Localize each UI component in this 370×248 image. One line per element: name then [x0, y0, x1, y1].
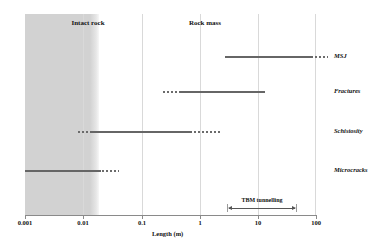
- tbm-arrow-line: [229, 208, 295, 209]
- row-label-msj: MSJ: [334, 52, 347, 59]
- zone-label-intact-rock: Intact rock: [71, 19, 104, 27]
- x-axis-label-0.01: 0.01: [77, 219, 88, 226]
- bar-schistosity-dotted-high: [193, 131, 221, 133]
- bar-msj-dotted: [314, 56, 328, 58]
- tbm-arrow-head-left: [228, 206, 232, 210]
- gridline-100: [315, 14, 316, 215]
- gridline-1: [200, 14, 201, 215]
- x-axis-line: [25, 215, 316, 216]
- gridline-10: [258, 14, 259, 215]
- gridline-0.1: [142, 14, 143, 215]
- row-label-fractures: Fractures: [334, 87, 360, 94]
- chart-figure: Intact rock Rock mass MSJ Fractures Schi…: [0, 0, 370, 248]
- annotation-label-tbm-tunnelling: TBM tunnelling: [241, 197, 282, 203]
- x-axis-label-100: 100: [311, 219, 321, 226]
- bar-microcracks: [25, 170, 101, 172]
- x-axis-title: Length (m): [152, 230, 183, 237]
- row-label-schistosity: Schistosity: [334, 127, 363, 134]
- gridline-0.01: [83, 14, 84, 215]
- bar-microcracks-dotted: [101, 170, 119, 172]
- tbm-range-end-tick: [296, 204, 297, 212]
- x-axis-label-1: 1: [198, 219, 201, 226]
- intact-rock-shading: [25, 14, 99, 215]
- x-axis-label-0.001: 0.001: [18, 219, 33, 226]
- bar-schistosity: [90, 131, 192, 133]
- bar-fractures: [180, 91, 265, 93]
- zone-label-rock-mass: Rock mass: [189, 19, 221, 27]
- row-label-microcracks: Microcracks: [334, 166, 368, 173]
- x-axis-label-0.1: 0.1: [138, 219, 146, 226]
- plot-area: [25, 14, 316, 215]
- bar-fractures-dotted: [162, 91, 180, 93]
- tbm-arrow-head-right: [292, 206, 296, 210]
- bar-msj: [225, 56, 313, 58]
- x-axis-label-10: 10: [255, 219, 262, 226]
- bar-schistosity-dotted-low: [77, 131, 90, 133]
